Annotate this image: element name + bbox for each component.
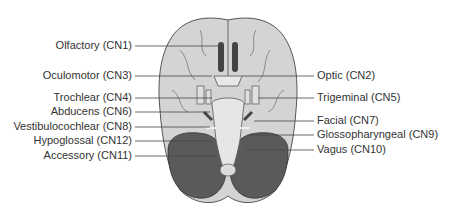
optic-chiasm (214, 76, 242, 86)
label-facial: Facial (CN7) (317, 114, 379, 127)
label-hypoglossal: Hypoglossal (CN12) (34, 134, 132, 147)
olfactory-bulb-right (232, 42, 238, 72)
label-vagus: Vagus (CN10) (317, 143, 386, 156)
label-abducens: Abducens (CN6) (51, 105, 132, 118)
olfactory-bulb-left (218, 42, 224, 72)
label-oculomotor: Oculomotor (CN3) (43, 69, 132, 82)
cranial-nerves-diagram: Olfactory (CN1) Oculomotor (CN3) Trochle… (0, 0, 451, 212)
label-vestibulocochlear: Vestibulocochlear (CN8) (13, 120, 132, 133)
label-olfactory: Olfactory (CN1) (56, 39, 132, 52)
label-accessory: Accessory (CN11) (44, 149, 132, 162)
label-glossopharyngeal: Glossopharyngeal (CN9) (317, 128, 438, 141)
label-optic: Optic (CN2) (317, 69, 375, 82)
label-trochlear: Trochlear (CN4) (54, 91, 132, 104)
label-trigeminal: Trigeminal (CN5) (317, 91, 400, 104)
